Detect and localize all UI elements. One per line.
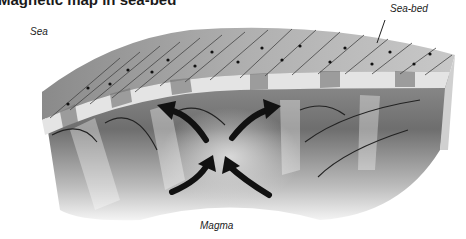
magma-label: Magma <box>200 220 233 231</box>
sea-bed-label: Sea-bed <box>390 3 428 14</box>
sea-floor-block <box>0 0 466 239</box>
sea-label: Sea <box>30 26 48 37</box>
